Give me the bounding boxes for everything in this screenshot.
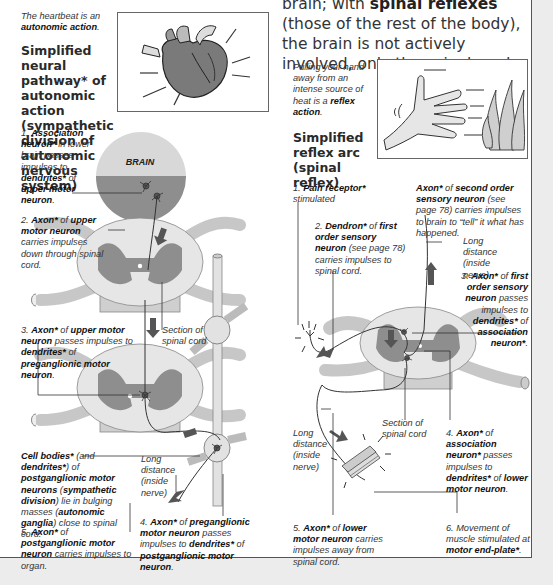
step-number: 2.: [315, 221, 325, 231]
step-number: 5.: [293, 523, 303, 533]
bold-term: dendrites*: [473, 316, 518, 326]
text: .: [519, 545, 522, 555]
text: of: [330, 523, 343, 533]
bold-term: Axon*: [471, 271, 498, 281]
bold-term: motor end-plate*: [446, 545, 519, 555]
bold-term: dendrites*: [21, 462, 66, 472]
bold-term: postganglionic motor neuron: [140, 551, 234, 572]
text: of: [491, 473, 504, 483]
brain-label: BRAIN: [120, 157, 160, 167]
bold-term: Cell bodies*: [21, 451, 74, 461]
text: of: [498, 271, 511, 281]
step-number: 6.: [446, 523, 456, 533]
bold-term: Axon*: [150, 517, 177, 527]
right-section-label: Section of spinal cord: [382, 418, 432, 440]
left-step-3: 3. Axon* of upper motor neuron passes im…: [21, 325, 133, 381]
reflex-heading: Simplified reflex arc (spinal reflex): [293, 130, 373, 190]
textbook-page: brain; with spinal reflexes (those of th…: [0, 0, 532, 558]
bold-term: dendrites*: [21, 347, 66, 357]
text: .: [506, 484, 509, 494]
bold-term: Axon*: [303, 523, 330, 533]
step-number: 2.: [21, 215, 31, 225]
text: of: [518, 316, 528, 326]
hand-illustration: [377, 59, 528, 159]
bold-term: Axon*: [31, 325, 58, 335]
left-step-1: 1. Association neuron* in lower brain pa…: [21, 128, 101, 206]
text: .: [525, 338, 528, 348]
text: .: [52, 370, 55, 380]
step-number: 4.: [140, 517, 150, 527]
bold-term: Axon*: [31, 215, 58, 225]
right-step-5: 5. Axon* of lower motor neuron carries i…: [293, 523, 393, 568]
right-step-3: 3. Axon* of first order sensory neuron p…: [440, 271, 528, 349]
right-step-1: 1. Pain receptor* stimulated: [293, 183, 378, 205]
text: of: [66, 347, 76, 357]
step-number: 3.: [21, 325, 31, 335]
step-number: 1.: [21, 128, 31, 138]
step-number: 5.: [21, 527, 31, 537]
bold-term: Axon*: [31, 527, 58, 537]
muscle-icon: [331, 434, 391, 488]
text: carries impulses down through spinal cor…: [21, 237, 103, 269]
left-section-label: Section of spinal cord: [162, 325, 207, 347]
text: of: [58, 325, 71, 335]
right-axon-second-order: Axon* of second order sensory neuron (se…: [416, 183, 528, 239]
bold-term: Axon*: [456, 428, 483, 438]
left-step-5: 5. Axon* of postganglionic motor neuron …: [21, 527, 133, 572]
bold-term: dendrites*: [21, 173, 66, 183]
pain-receptor-icon: [295, 321, 324, 352]
bold-term: Axon*: [416, 183, 443, 193]
left-step-2: 2. Axon* of upper motor neuron carries i…: [21, 215, 109, 271]
caption-end: .: [320, 107, 323, 117]
right-step-2: 2. Dendron* of first order sensory neuro…: [315, 221, 407, 277]
text: stimulated: [293, 194, 335, 204]
hand-caption: Pulling your hand away from an intense s…: [293, 62, 365, 118]
bold-term: Dendron*: [325, 221, 366, 231]
text: of: [443, 183, 456, 193]
step-number: 1.: [293, 183, 303, 193]
text: of: [58, 215, 71, 225]
hand-flame-icon: [378, 60, 527, 158]
left-long-distance-label: Long distance (inside nerve): [141, 454, 191, 499]
left-step-4: 4. Axon* of preganglionic motor neuron p…: [140, 517, 265, 573]
text: of: [483, 428, 493, 438]
bold-term: dendrites*: [446, 473, 491, 483]
bold-term: association neuron*: [477, 327, 528, 348]
text: of: [58, 527, 68, 537]
text: .: [52, 195, 55, 205]
text: Movement of muscle stimulated at: [446, 523, 530, 544]
step-number: 3.: [461, 271, 471, 281]
text: of: [177, 517, 190, 527]
text: of: [367, 221, 380, 231]
bold-term: upper motor neuron: [21, 184, 75, 205]
bold-term: preganglionic motor neuron: [21, 359, 110, 380]
bold-term: dendrites*: [189, 539, 234, 549]
right-long-distance-bottom: Long distance (inside nerve): [293, 428, 333, 473]
step-number: 4.: [446, 428, 456, 438]
bold-term: Pain receptor*: [303, 183, 365, 193]
text: ) of: [66, 462, 79, 472]
text: .: [171, 562, 174, 572]
text: passes impulses to: [52, 336, 133, 346]
text: of: [234, 539, 244, 549]
right-step-4: 4. Axon* of association neuron* passes i…: [446, 428, 530, 495]
right-step-6: 6. Movement of muscle stimulated at moto…: [446, 523, 530, 557]
text: (and: [74, 451, 95, 461]
text: of: [66, 173, 76, 183]
